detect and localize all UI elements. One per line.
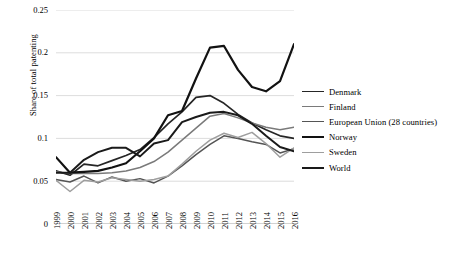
x-axis-tick-label: 2011 (221, 212, 230, 229)
legend-label: Denmark (329, 87, 361, 97)
x-axis-tick-label: 2014 (263, 212, 272, 229)
legend-swatch (302, 121, 324, 122)
legend-item-world[interactable]: World (302, 160, 454, 175)
series-line-denmark (56, 96, 294, 176)
legend-item-sweden[interactable]: Sweden (302, 145, 454, 160)
legend-item-european-union-28-countries[interactable]: European Union (28 countries) (302, 114, 454, 129)
legend-label: Finland (329, 102, 356, 112)
x-axis-tick-label: 2003 (109, 212, 118, 229)
y-axis-tick-label: 0.05 (18, 177, 48, 186)
y-axis-tick-label: 0.2 (18, 48, 48, 57)
x-axis-tick-label: 2016 (291, 212, 300, 229)
x-axis-tick-label: 2015 (277, 212, 286, 229)
legend-item-norway[interactable]: Norway (302, 130, 454, 145)
legend-label: World (329, 163, 351, 173)
y-axis-tick-label: 0.15 (18, 91, 48, 100)
series-line-norway (56, 44, 294, 172)
chart-legend: DenmarkFinlandEuropean Union (28 countri… (302, 84, 454, 175)
series-line-european-union-28-countries (56, 136, 294, 183)
legend-label: Sweden (329, 147, 357, 157)
y-axis-tick-label: 0 (18, 220, 48, 229)
x-axis-tick-label: 2002 (95, 212, 104, 229)
x-axis-tick-label: 2004 (123, 212, 132, 229)
x-axis-tick-label: 2009 (193, 212, 202, 229)
legend-label: Norway (329, 132, 357, 142)
x-axis-tick-label: 2000 (67, 212, 76, 229)
legend-item-finland[interactable]: Finland (302, 99, 454, 114)
legend-item-denmark[interactable]: Denmark (302, 84, 454, 99)
legend-swatch (302, 167, 324, 169)
x-axis-tick-label: 2013 (249, 212, 258, 229)
legend-swatch (302, 152, 324, 153)
y-axis-title: Share of total patenting (28, 0, 38, 155)
legend-label: European Union (28 countries) (329, 117, 437, 127)
legend-swatch (302, 106, 324, 107)
x-axis-tick-label: 1999 (53, 212, 62, 229)
y-axis-tick-label: 0.1 (18, 134, 48, 143)
x-axis-tick-label: 2012 (235, 212, 244, 229)
x-axis-tick-label: 2008 (179, 212, 188, 229)
legend-swatch (302, 136, 324, 138)
x-axis-tick-label: 2001 (81, 212, 90, 229)
x-axis-tick-label: 2005 (137, 212, 146, 229)
chart-figure: Share of total patenting 0.25 0.2 0.15 0… (0, 0, 454, 263)
y-axis-tick-label: 0.25 (18, 6, 48, 15)
series-line-sweden (56, 132, 294, 191)
x-axis-tick-label: 2006 (151, 212, 160, 229)
x-axis-tick-label: 2007 (165, 212, 174, 229)
x-axis-tick-label: 2010 (207, 212, 216, 229)
legend-swatch (302, 91, 324, 92)
plot-area (56, 10, 294, 224)
